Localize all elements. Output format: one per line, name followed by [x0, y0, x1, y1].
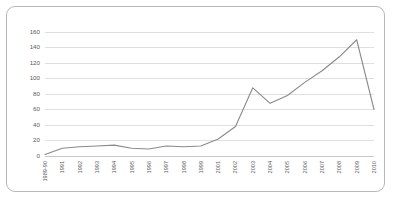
- x-axis-tick-label: 2002: [232, 161, 238, 173]
- x-axis-tick-label: 1995: [129, 161, 135, 173]
- x-axis-tick-label: 2003: [250, 161, 256, 173]
- x-axis-tick-label: 2010: [371, 161, 377, 173]
- x-axis-tick-label: 1996: [146, 161, 152, 173]
- y-axis-tick-label: 40: [33, 121, 40, 128]
- x-axis-tick-labels: 1989-90199119921993199419951996199719981…: [42, 161, 377, 182]
- y-axis-tick-label: 20: [33, 136, 40, 143]
- x-axis-tick-label: 2001: [215, 161, 221, 173]
- x-axis-tick-label: 2005: [284, 161, 290, 173]
- x-axis-tick-label: 2008: [336, 161, 342, 173]
- x-axis-tick-label: 1999: [198, 161, 204, 173]
- gridlines-group: [45, 32, 374, 156]
- x-axis-tick-label: 2009: [354, 161, 360, 173]
- y-axis-tick-label: 140: [30, 43, 41, 50]
- x-axis-tick-label: 1997: [163, 161, 169, 173]
- y-axis-tick-label: 80: [33, 90, 40, 97]
- x-axis-tick-label: 1991: [59, 161, 65, 173]
- x-axis-tick-label: 2004: [267, 161, 273, 173]
- y-axis-tick-label: 60: [33, 105, 40, 112]
- x-axis-tick-label: 1992: [77, 161, 83, 173]
- y-axis-tick-label: 160: [30, 28, 41, 35]
- x-axis-tick-label: 2006: [302, 161, 308, 173]
- y-axis-tick-labels: 020406080100120140160: [30, 28, 41, 159]
- y-axis-tick-label: 100: [30, 74, 41, 81]
- x-axis-tick-label: 1994: [111, 161, 117, 173]
- data-series-line: [45, 40, 374, 155]
- x-axis-tick-label: 2007: [319, 161, 325, 173]
- x-axis-tick-label: 1989-90: [42, 161, 48, 182]
- y-axis-tick-label: 120: [30, 59, 41, 66]
- line-chart: 020406080100120140160 1989-9019911992199…: [7, 7, 386, 193]
- x-axis-tick-label: 1993: [94, 161, 100, 173]
- chart-card: 020406080100120140160 1989-9019911992199…: [6, 6, 385, 192]
- x-axis-tick-label: 1998: [181, 161, 187, 173]
- y-axis-tick-label: 0: [37, 152, 41, 159]
- chart-plot-area: 020406080100120140160 1989-9019911992199…: [7, 7, 386, 193]
